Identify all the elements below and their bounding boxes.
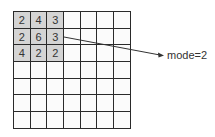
mode-result-label: mode=2 [167, 49, 207, 61]
arrow-connector [0, 0, 215, 137]
arrowhead-icon [158, 53, 164, 58]
